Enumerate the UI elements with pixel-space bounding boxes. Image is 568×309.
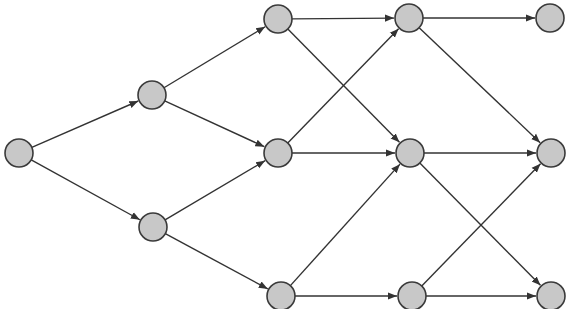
edge-B-M1 [165, 161, 265, 220]
node-circle [5, 139, 33, 167]
arrow-icon [165, 161, 265, 220]
node-T1 [264, 5, 292, 33]
arrow-icon [290, 164, 400, 285]
node-A [138, 81, 166, 109]
node-S [5, 139, 33, 167]
arrow-icon [420, 163, 541, 285]
node-circle [264, 5, 292, 33]
node-circle [139, 213, 167, 241]
arrow-icon [292, 18, 394, 19]
arrow-icon [419, 28, 540, 143]
arrow-icon [165, 234, 267, 289]
edge-S-A [32, 101, 138, 147]
node-circle [398, 282, 426, 309]
node-M2 [396, 139, 424, 167]
node-T2 [395, 4, 423, 32]
arrow-icon [31, 160, 140, 220]
node-circle [537, 282, 565, 309]
edge-M2-L3 [420, 163, 541, 285]
edge-B-L1 [165, 234, 267, 289]
edge-T1-T2 [292, 18, 394, 19]
arrow-icon [32, 101, 138, 147]
edge-A-M1 [165, 101, 265, 147]
edge-S-B [31, 160, 140, 220]
nodes-layer [5, 4, 565, 309]
edge-L1-M2 [290, 164, 400, 285]
node-M3 [537, 139, 565, 167]
arrow-icon [164, 27, 265, 88]
node-T3 [536, 4, 564, 32]
node-circle [138, 81, 166, 109]
arrow-icon [165, 101, 265, 147]
node-L1 [267, 282, 295, 309]
node-circle [536, 4, 564, 32]
node-circle [267, 282, 295, 309]
node-circle [264, 139, 292, 167]
node-B [139, 213, 167, 241]
edge-T2-M3 [419, 28, 540, 143]
node-M1 [264, 139, 292, 167]
node-L2 [398, 282, 426, 309]
node-circle [396, 139, 424, 167]
node-circle [537, 139, 565, 167]
graph-canvas [0, 0, 568, 309]
node-circle [395, 4, 423, 32]
node-L3 [537, 282, 565, 309]
edge-A-T1 [164, 27, 265, 88]
